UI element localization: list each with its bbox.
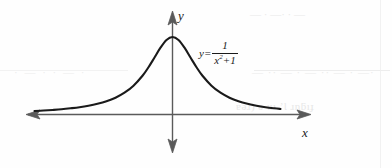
equation-annotation: y= 1 x2+1 [199,40,238,66]
y-axis-label: y [178,9,184,22]
equation-fraction: 1 x2+1 [212,40,237,66]
figure-container: — · —· · — — ·· — · — ·· — · —· ɐǝɹ) ǝ u… [0,0,392,168]
function-curve [35,37,281,111]
denominator-tail: +1 [223,54,236,66]
fraction-numerator: 1 [218,40,232,53]
fraction-denominator: x2+1 [212,54,237,67]
x-axis-label: x [302,126,308,139]
plot-area [0,0,392,168]
equation-left-side: y= [199,47,211,59]
